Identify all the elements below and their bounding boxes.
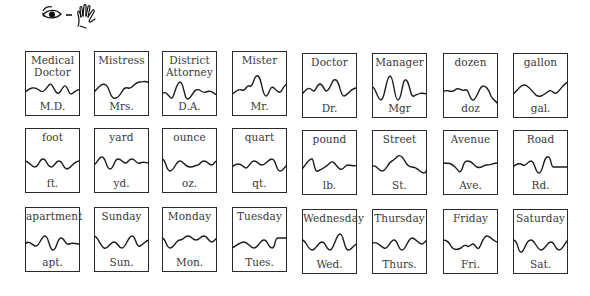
eye-icon	[42, 7, 61, 18]
sign-card-gallon: gallongal.	[513, 53, 568, 118]
card-abbreviation: Mgr	[373, 102, 426, 114]
eye-hand-icon	[40, 4, 120, 30]
card-abbreviation: gal.	[514, 102, 567, 114]
sign-card-medical-doctor: Medical DoctorM.D.	[25, 51, 80, 116]
sign-card-foot: footft.	[25, 128, 80, 193]
card-abbreviation: Fri.	[444, 258, 497, 270]
card-abbreviation: Dr.	[303, 102, 356, 114]
card-abbreviation: lb.	[303, 179, 356, 191]
sign-card-apartment: apartmentapt.	[25, 207, 80, 272]
card-abbreviation: Mr.	[233, 100, 286, 112]
card-abbreviation: qt.	[233, 177, 286, 189]
card-abbreviation: Mrs.	[95, 100, 148, 112]
sign-card-dozen: dozendoz	[443, 53, 498, 118]
card-abbreviation: Wed.	[303, 258, 356, 270]
sign-card-road: RoadRd.	[513, 130, 568, 195]
card-abbreviation: D.A.	[163, 100, 216, 112]
sign-card-mister: MisterMr.	[232, 51, 287, 116]
sign-card-pound: poundlb.	[302, 130, 357, 195]
sign-card-street: StreetSt.	[372, 130, 427, 195]
sign-card-quart: quartqt.	[232, 128, 287, 193]
sign-card-wednesday: WednesdayWed.	[302, 209, 357, 274]
card-abbreviation: Sat.	[514, 258, 567, 270]
sign-card-mistress: MistressMrs.	[94, 51, 149, 116]
header-eye-hand	[40, 4, 120, 30]
card-abbreviation: M.D.	[26, 100, 79, 112]
sign-card-yard: yardyd.	[94, 128, 149, 193]
card-abbreviation: Rd.	[514, 179, 567, 191]
sign-card-sunday: SundaySun.	[94, 207, 149, 272]
sign-card-avenue: AvenueAve.	[443, 130, 498, 195]
card-abbreviation: Mon.	[163, 256, 216, 268]
sign-card-monday: MondayMon.	[162, 207, 217, 272]
sign-card-manager: ManagerMgr	[372, 53, 427, 118]
card-abbreviation: Ave.	[444, 179, 497, 191]
sign-card-saturday: SaturdaySat.	[513, 209, 568, 274]
card-abbreviation: Thurs.	[373, 258, 426, 270]
sign-card-tuesday: TuesdayTues.	[232, 207, 287, 272]
card-abbreviation: oz.	[163, 177, 216, 189]
sign-card-district-attorney: District AttorneyD.A.	[162, 51, 217, 116]
card-abbreviation: apt.	[26, 256, 79, 268]
sign-card-thursday: ThursdayThurs.	[372, 209, 427, 274]
hand-icon	[78, 5, 95, 29]
card-abbreviation: St.	[373, 179, 426, 191]
card-abbreviation: Sun.	[95, 256, 148, 268]
sign-card-doctor: DoctorDr.	[302, 53, 357, 118]
sign-card-ounce: ounceoz.	[162, 128, 217, 193]
sign-card-friday: FridayFri.	[443, 209, 498, 274]
card-abbreviation: doz	[444, 102, 497, 114]
card-abbreviation: yd.	[95, 177, 148, 189]
card-abbreviation: ft.	[26, 177, 79, 189]
card-abbreviation: Tues.	[233, 256, 286, 268]
